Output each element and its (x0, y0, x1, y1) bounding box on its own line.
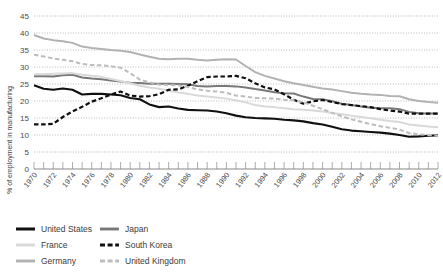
x-axis-tick-label: 2006 (368, 171, 385, 190)
y-axis-tick-label: 10 (20, 131, 29, 140)
y-axis-tick-label: 40 (20, 29, 29, 38)
x-axis (34, 162, 438, 169)
legend-item-united-states[interactable]: United States (16, 224, 92, 234)
x-axis-tick-label: 2012 (426, 171, 443, 190)
y-axis-tick-labels: 051015202530354045 (20, 12, 29, 174)
legend-label-france: France (41, 240, 68, 250)
legend-item-france[interactable]: France (16, 240, 68, 250)
x-axis-tick-label: 1986 (176, 171, 193, 190)
y-axis-tick-label: 15 (20, 114, 29, 123)
chart-legend: United StatesJapanFranceSouth KoreaGerma… (16, 224, 185, 266)
y-axis-tick-label: 45 (20, 12, 29, 21)
x-axis-tick-label: 2000 (310, 171, 327, 190)
x-axis-tick-label: 1978 (99, 171, 116, 190)
y-axis-tick-label: 20 (20, 97, 29, 106)
x-axis-tick-label: 1992 (233, 171, 250, 190)
x-axis-tick-label: 1972 (41, 171, 58, 190)
x-axis-tick-label: 1990 (214, 171, 231, 190)
y-axis-title: % of employment in manufacturing (6, 86, 14, 194)
x-axis-tick-label: 1974 (60, 171, 77, 190)
series-line-germany (34, 35, 438, 103)
legend-label-united-kingdom: United Kingdom (125, 256, 185, 266)
chart-container: % of employment in manufacturing 0510152… (0, 0, 443, 278)
series-line-united-states (34, 85, 438, 136)
legend-label-germany: Germany (41, 256, 77, 266)
x-axis-tick-label: 1982 (137, 171, 154, 190)
legend-item-south-korea[interactable]: South Korea (100, 240, 173, 250)
x-axis-tick-label: 1976 (79, 171, 96, 190)
legend-item-japan[interactable]: Japan (100, 224, 148, 234)
x-axis-tick-label: 1984 (156, 171, 173, 190)
legend-item-united-kingdom[interactable]: United Kingdom (100, 256, 185, 266)
y-axis-tick-label: 35 (20, 46, 29, 55)
x-axis-tick-label: 1988 (195, 171, 212, 190)
x-axis-tick-label: 1980 (118, 171, 135, 190)
x-axis-tick-label: 1994 (253, 171, 270, 190)
x-axis-tick-label: 2010 (406, 171, 423, 190)
x-axis-tick-label: 2004 (349, 171, 366, 190)
legend-label-united-states: United States (41, 224, 92, 234)
legend-label-south-korea: South Korea (125, 240, 173, 250)
x-axis-tick-label: 1996 (272, 171, 289, 190)
y-axis-tick-label: 30 (20, 63, 29, 72)
x-axis-tick-label: 1998 (291, 171, 308, 190)
y-axis-title-group: % of employment in manufacturing (6, 86, 14, 194)
legend-label-japan: Japan (125, 224, 148, 234)
x-axis-tick-label: 2008 (387, 171, 404, 190)
legend-item-germany[interactable]: Germany (16, 256, 77, 266)
y-axis-tick-label: 25 (20, 80, 29, 89)
y-axis-tick-label: 5 (25, 148, 30, 157)
x-axis-tick-labels: 1970197219741976197819801982198419861988… (22, 171, 443, 190)
y-axis-tick-label: 0 (25, 165, 30, 174)
line-chart: % of employment in manufacturing 0510152… (0, 0, 443, 278)
x-axis-tick-label: 2002 (330, 171, 347, 190)
